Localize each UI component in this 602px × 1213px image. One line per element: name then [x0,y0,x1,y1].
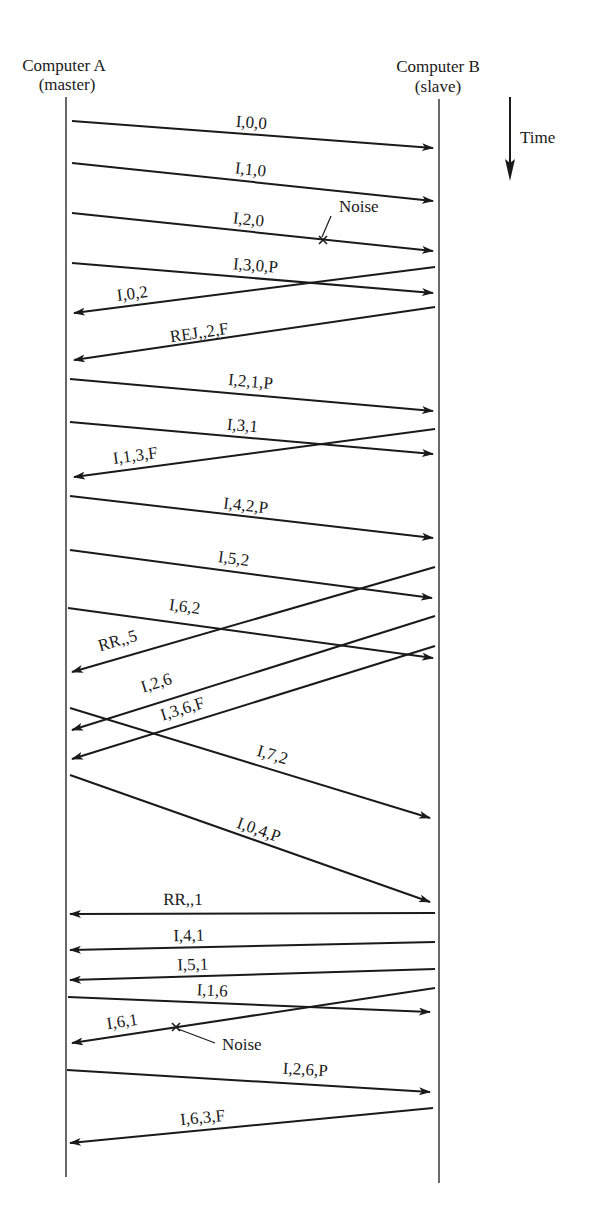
message-label: I,5,2 [217,547,250,570]
message-arrow: I,0,0 [72,112,433,148]
message-arrow: I,5,2 [70,547,432,598]
message-label: I,4,1 [173,926,205,946]
message-arrow-line [70,550,432,598]
message-arrow: I,6,1Noise [72,988,435,1054]
message-label: I,5,1 [177,955,209,975]
noise-marker: Noise [172,1023,262,1054]
computer-b-header: Computer B (slave) [396,57,480,96]
noise-marker: Noise [319,197,379,244]
message-arrow: I,4,2,P [70,494,433,538]
message-label: I,2,0 [232,208,265,230]
message-label: I,1,0 [234,158,267,180]
noise-label: Noise [222,1035,262,1054]
message-arrow-line [68,997,430,1012]
message-arrow: I,2,6,P [67,1059,430,1092]
message-arrow-line [72,646,435,759]
message-arrow: REJ,,2,F [74,307,435,360]
message-label: I,2,6,P [282,1059,328,1081]
computer-a-name: Computer A [22,56,106,75]
message-label: RR,,5 [96,626,139,655]
message-label: I,6,1 [105,1010,139,1033]
time-label: Time [520,128,555,147]
message-arrow-line [70,969,435,980]
message-arrow-line [72,567,435,672]
message-arrow: I,0,4,P [70,775,430,902]
message-arrow: I,1,0 [72,158,433,201]
message-label: I,1,6 [196,980,228,1000]
message-arrow: I,1,3,F [74,429,435,477]
message-arrow: I,3,6,F [72,646,435,759]
time-indicator: Time [505,97,555,181]
noise-label: Noise [339,197,379,216]
computer-b-role: (slave) [415,77,461,96]
message-arrow: I,4,1 [70,926,435,950]
message-arrow: I,2,0Noise [72,197,433,251]
message-arrow-line [74,307,435,360]
hdlc-sequence-diagram: Computer A (master) Computer B (slave) T… [0,0,602,1213]
message-label: REJ,,2,F [169,319,230,346]
message-label: I,0,0 [235,112,268,133]
message-label: I,2,6 [139,669,174,696]
message-arrow-line [70,708,430,818]
message-arrow-line [67,1070,430,1092]
noise-leader-line [322,216,331,237]
message-arrow: I,2,1,P [70,370,433,411]
message-arrow: I,5,1 [70,955,435,980]
computer-b-name: Computer B [396,57,480,76]
message-label: I,3,1 [226,415,259,437]
message-arrow-line [70,913,435,914]
message-label: I,7,2 [255,741,290,768]
message-label: I,6,2 [168,595,201,618]
message-label: I,0,2 [116,282,149,305]
computer-a-role: (master) [39,75,96,94]
computer-a-header: Computer A (master) [22,56,106,94]
message-label: I,3,0,P [232,254,278,277]
noise-leader-line [178,1029,215,1043]
message-label: I,6,3,F [179,1106,225,1129]
message-label: I,1,3,F [112,443,159,468]
message-label: I,2,1,P [227,370,273,393]
message-arrow: I,6,3,F [70,1106,433,1143]
message-arrow-line [70,1108,433,1143]
message-list: I,0,0I,1,0I,2,0NoiseI,3,0,PI,0,2REJ,,2,F… [67,112,435,1143]
message-arrow: RR,,5 [72,567,435,672]
message-arrow-line [70,942,435,950]
message-arrow: I,7,2 [70,708,430,818]
message-label: RR,,1 [163,890,203,909]
message-arrow-line [70,775,430,902]
message-arrow: RR,,1 [70,890,435,914]
